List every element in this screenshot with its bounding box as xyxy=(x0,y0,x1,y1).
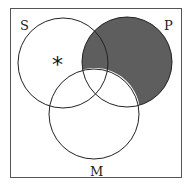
venn-diagram: S P M * xyxy=(0,0,193,192)
label-s: S xyxy=(20,18,29,33)
label-p: P xyxy=(164,18,173,33)
asterisk-mark: * xyxy=(52,52,63,77)
label-m: M xyxy=(90,164,103,179)
